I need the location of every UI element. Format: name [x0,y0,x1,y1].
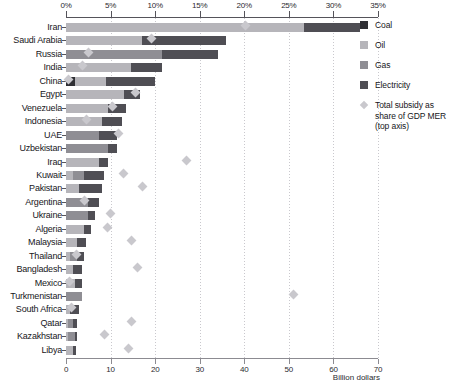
bar-segment-gas [66,211,88,220]
category-label: Iraq [0,156,62,169]
top-axis-tick [333,11,334,17]
stacked-bar [66,144,378,153]
bar-segment-oil [66,225,84,234]
top-axis-tick-label: 0% [52,1,80,10]
stacked-bar [66,265,378,274]
top-axis-line [66,17,378,18]
bottom-axis-tick-label: 0 [52,365,80,374]
bar-segment-electricity [106,77,155,86]
chart-row: Malaysia [0,236,380,249]
category-label: Argentina [0,196,62,209]
chart-row: India [0,61,380,74]
bar-segment-gas [73,171,84,180]
bottom-axis-tick [289,359,290,364]
category-label: China [0,75,62,88]
chart-row: Indonesia [0,115,380,128]
stacked-bar [66,117,378,126]
stacked-bar [66,292,378,301]
legend-swatch-icon [360,41,368,49]
stacked-bar [66,171,378,180]
chart-row: UAE [0,129,380,142]
top-axis-tick-label: 5% [97,1,125,10]
stacked-bar [66,63,378,72]
bar-segment-electricity [88,198,99,207]
bar-segment-electricity [162,50,218,59]
category-label: Indonesia [0,115,62,128]
top-axis-tick-label: 30% [319,1,347,10]
stacked-bar [66,131,378,140]
top-axis-tick [111,11,112,17]
top-axis-tick-label: 35% [364,1,392,10]
bar-segment-oil [66,346,73,355]
stacked-bar [66,279,378,288]
legend-item[interactable]: Oil [360,40,452,51]
legend-diamond-icon [360,101,368,109]
category-label: UAE [0,129,62,142]
legend-item[interactable]: Total subsidy as share of GDP MER (top a… [360,100,452,132]
bottom-axis-tick-label: 10 [97,365,125,374]
top-axis-tick-label: 20% [230,1,258,10]
stacked-bar [66,238,378,247]
stacked-bar [66,50,378,59]
legend-swatch-icon [360,81,368,89]
bar-segment-gas [66,131,99,140]
stacked-bar [66,77,378,86]
chart-row: Kazakhstan [0,330,380,343]
bar-segment-electricity [84,171,104,180]
bar-segment-electricity [79,184,101,193]
stacked-bar [66,184,378,193]
stacked-bar [66,225,378,234]
bottom-axis-tick [66,359,67,364]
chart-row: Qatar [0,317,380,330]
top-axis-tick [66,11,67,17]
legend-label: Coal [375,20,452,31]
legend-swatch-icon [360,61,368,69]
category-label: Mexico [0,277,62,290]
bottom-axis-tick-label: 30 [186,365,214,374]
legend-item[interactable]: Gas [360,60,452,71]
category-label: Bangladesh [0,263,62,276]
stacked-bar [66,198,378,207]
legend-label: Electricity [375,80,452,91]
legend-label: Gas [375,60,452,71]
legend-item[interactable]: Coal [360,20,452,31]
chart-row: Thailand [0,250,380,263]
category-label: South Africa [0,303,62,316]
bar-segment-oil [66,104,108,113]
stacked-bar [66,332,378,341]
bar-segment-electricity [73,346,77,355]
chart-row: Argentina [0,196,380,209]
top-axis-tick [155,11,156,17]
bottom-axis-tick-label: 50 [275,365,303,374]
chart-row: Iran [0,21,380,34]
bottom-axis-tick-label: 40 [230,365,258,374]
bar-segment-electricity [131,63,162,72]
top-axis-tick [244,11,245,17]
top-axis-tick-label: 15% [186,1,214,10]
chart-row: Uzbekistan [0,142,380,155]
bar-segment-oil [66,158,99,167]
bar-segment-oil [66,90,124,99]
stacked-bar [66,252,378,261]
bottom-axis-tick [111,359,112,364]
legend-swatch-icon [360,21,368,29]
top-axis-tick [200,11,201,17]
bar-segment-gas [66,292,82,301]
chart-row: Russia [0,48,380,61]
bottom-axis-tick [155,359,156,364]
stacked-bar [66,36,378,45]
bar-segment-electricity [75,332,77,341]
stacked-bar [66,90,378,99]
category-label: Malaysia [0,236,62,249]
legend-item[interactable]: Electricity [360,80,452,91]
bar-segment-oil [66,23,304,32]
bar-segment-oil [66,184,79,193]
chart-row: Kuwait [0,169,380,182]
category-label: Uzbekistan [0,142,62,155]
chart-row: Pakistan [0,182,380,195]
bar-segment-electricity [304,23,360,32]
legend-label: Oil [375,40,452,51]
legend-label: Total subsidy as share of GDP MER (top a… [375,100,452,132]
bar-segment-oil [66,36,142,45]
bottom-axis-tick-label: 20 [141,365,169,374]
